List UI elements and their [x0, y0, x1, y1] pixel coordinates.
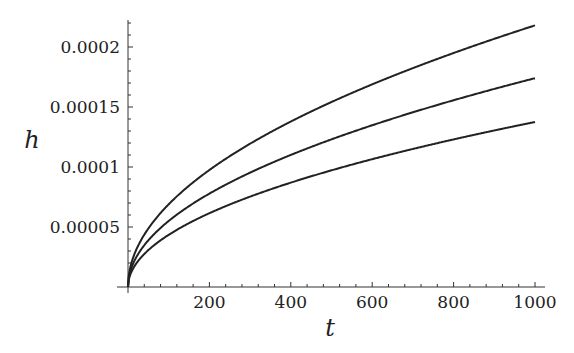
y-axis-label: h	[24, 126, 39, 154]
axes: 20040060080010000.000050.00010.000150.00…	[50, 20, 557, 312]
x-tick-label: 1000	[513, 292, 556, 312]
y-tick-label: 0.0002	[61, 37, 120, 57]
line-chart: 20040060080010000.000050.00010.000150.00…	[0, 0, 574, 353]
y-tick-label: 0.00005	[50, 217, 120, 237]
y-tick-label: 0.00015	[50, 97, 120, 117]
curve-upper	[128, 25, 535, 287]
x-tick-label: 400	[275, 292, 307, 312]
curve-lower	[128, 122, 535, 287]
curve-middle	[128, 78, 535, 287]
x-tick-label: 800	[437, 292, 469, 312]
y-tick-label: 0.0001	[61, 157, 120, 177]
x-tick-label: 600	[356, 292, 388, 312]
x-axis-label: t	[325, 314, 335, 342]
x-tick-label: 200	[193, 292, 225, 312]
data-curves	[128, 25, 535, 287]
